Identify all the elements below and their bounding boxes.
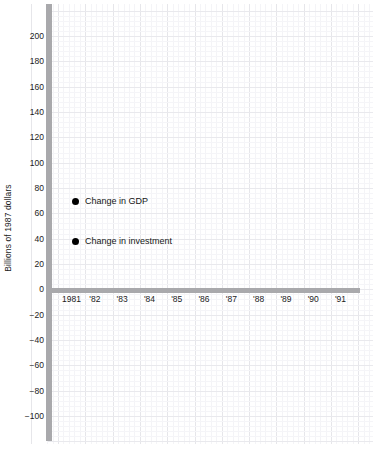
- y-tick-label: 120: [0, 132, 44, 142]
- grid-line-horizontal: [48, 173, 373, 174]
- x-tick-label: '86: [199, 294, 210, 304]
- grid-line-horizontal: [48, 315, 373, 316]
- grid-line-horizontal: [48, 208, 373, 209]
- grid-line-horizontal: [48, 92, 373, 93]
- grid-line-horizontal: [48, 213, 373, 214]
- grid-line-horizontal: [48, 234, 373, 235]
- grid-line-horizontal: [48, 61, 373, 62]
- y-tick-label: −80: [0, 386, 44, 396]
- y-tick-label: 20: [0, 259, 44, 269]
- x-tick-label: '82: [89, 294, 100, 304]
- grid-line-horizontal: [48, 279, 373, 280]
- grid-line-horizontal: [48, 254, 373, 255]
- grid-line-horizontal: [48, 325, 373, 326]
- grid-line-horizontal: [48, 386, 373, 387]
- grid-line-horizontal: [48, 21, 373, 22]
- y-tick-label: 100: [0, 158, 44, 168]
- grid-line-horizontal: [48, 391, 373, 392]
- y-tick-label: 140: [0, 107, 44, 117]
- y-tick-label: 180: [0, 56, 44, 66]
- grid-line-horizontal: [48, 107, 373, 108]
- grid-line-horizontal: [48, 284, 373, 285]
- legend-marker-icon: [72, 238, 79, 245]
- grid-line-horizontal: [48, 127, 373, 128]
- y-tick-label: 40: [0, 234, 44, 244]
- grid-line-horizontal: [48, 411, 373, 412]
- grid-line-horizontal: [48, 355, 373, 356]
- grid-line-horizontal: [48, 421, 373, 422]
- grid-line-horizontal: [48, 168, 373, 169]
- x-tick-label: '89: [280, 294, 291, 304]
- grid-line-horizontal: [48, 183, 373, 184]
- grid-line-horizontal: [48, 320, 373, 321]
- grid-line-horizontal: [48, 375, 373, 376]
- y-tick-label: −100: [0, 411, 44, 421]
- grid-line-horizontal: [48, 147, 373, 148]
- legend-item-change-in-investment: Change in investment: [72, 236, 172, 246]
- grid-line-horizontal: [48, 56, 373, 57]
- x-axis-ticks: 1981'82'83'84'85'86'87'88'89'90'91: [0, 294, 373, 308]
- grid-line-horizontal: [48, 188, 373, 189]
- grid-line-horizontal: [48, 178, 373, 179]
- grid-line-horizontal: [48, 441, 373, 442]
- grid-lines: [48, 4, 373, 444]
- grid-line-horizontal: [48, 112, 373, 113]
- grid-line-horizontal: [48, 16, 373, 17]
- grid-line-horizontal: [48, 163, 373, 164]
- grid-line-horizontal: [48, 229, 373, 230]
- grid-line-horizontal: [48, 401, 373, 402]
- grid-line-horizontal: [48, 66, 373, 67]
- grid-line-horizontal: [48, 365, 373, 366]
- grid-line-horizontal: [48, 102, 373, 103]
- y-axis-ticks: 200180160140120100806040200−20−40−60−80−…: [0, 0, 44, 455]
- grid-line-horizontal: [48, 36, 373, 37]
- grid-line-horizontal: [48, 330, 373, 331]
- x-tick-label: '87: [226, 294, 237, 304]
- grid-line-horizontal: [48, 340, 373, 341]
- grid-line-horizontal: [48, 153, 373, 154]
- grid-line-horizontal: [48, 436, 373, 437]
- y-tick-label: 0: [0, 284, 44, 294]
- grid-line-horizontal: [48, 97, 373, 98]
- grid-line-horizontal: [48, 71, 373, 72]
- y-tick-label: 60: [0, 208, 44, 218]
- grid-line-horizontal: [48, 431, 373, 432]
- grid-line-horizontal: [48, 335, 373, 336]
- x-tick-label: '83: [117, 294, 128, 304]
- grid-line-horizontal: [48, 31, 373, 32]
- grid-line-horizontal: [48, 117, 373, 118]
- plot-area: [48, 4, 373, 444]
- grid-line-horizontal: [48, 122, 373, 123]
- grid-line-horizontal: [48, 360, 373, 361]
- grid-line-horizontal: [48, 26, 373, 27]
- chart-figure: Billions of 1987 dollars 200180160140120…: [0, 0, 373, 455]
- grid-line-horizontal: [48, 249, 373, 250]
- legend-item-label: Change in investment: [85, 236, 172, 246]
- grid-line-horizontal: [48, 426, 373, 427]
- legend-marker-icon: [72, 198, 79, 205]
- legend-item-change-in-gdp: Change in GDP: [72, 196, 148, 206]
- grid-line-horizontal: [48, 82, 373, 83]
- grid-line-horizontal: [48, 87, 373, 88]
- x-tick-label: '84: [144, 294, 155, 304]
- grid-line-horizontal: [48, 269, 373, 270]
- x-tick-label: 1981: [62, 294, 81, 304]
- grid-line-horizontal: [48, 11, 373, 12]
- y-tick-label: −60: [0, 360, 44, 370]
- legend-item-label: Change in GDP: [85, 196, 148, 206]
- grid-line-horizontal: [48, 77, 373, 78]
- grid-line-horizontal: [48, 381, 373, 382]
- y-tick-label: 200: [0, 31, 44, 41]
- grid-line-horizontal: [48, 46, 373, 47]
- grid-line-horizontal: [48, 310, 373, 311]
- grid-line-horizontal: [48, 345, 373, 346]
- grid-line-horizontal: [48, 223, 373, 224]
- y-axis-spine: [46, 4, 52, 441]
- grid-line-horizontal: [48, 218, 373, 219]
- x-tick-label: '90: [308, 294, 319, 304]
- grid-line-horizontal: [48, 132, 373, 133]
- y-tick-label: −20: [0, 310, 44, 320]
- grid-line-horizontal: [48, 274, 373, 275]
- grid-line-horizontal: [48, 51, 373, 52]
- grid-line-horizontal: [48, 41, 373, 42]
